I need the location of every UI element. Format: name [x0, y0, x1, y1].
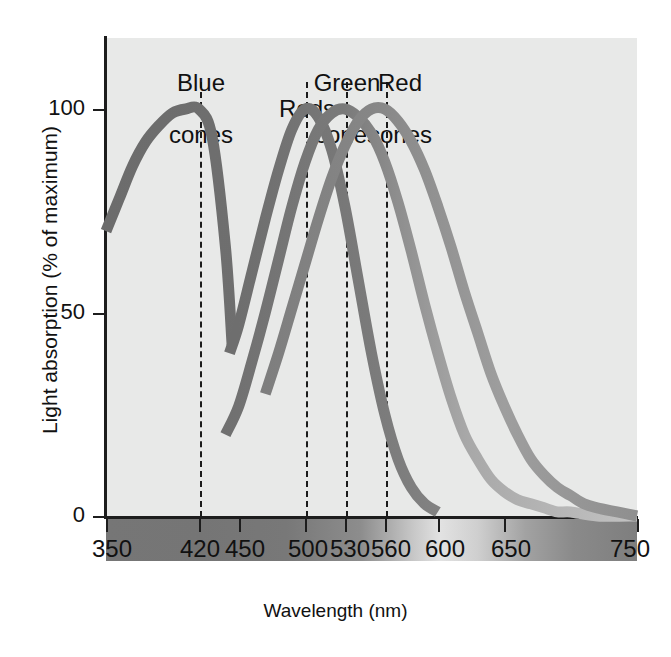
- figure-container: 100 50 0 Light absorption (% of maximum)…: [0, 0, 671, 657]
- x-tick-600: [438, 519, 440, 532]
- callout-blue-cones-line2: cones: [169, 122, 233, 148]
- x-tick-label-420: 420: [180, 536, 220, 562]
- x-tick-420: [199, 519, 201, 532]
- x-tick-350: [106, 519, 108, 532]
- x-tick-label-650: 650: [491, 536, 531, 562]
- callout-red-cones-line2: cones: [368, 122, 432, 148]
- x-tick-450: [239, 519, 241, 532]
- y-tick-label-0: 0: [73, 504, 85, 526]
- x-tick-500: [305, 519, 307, 532]
- y-tick-50: [93, 313, 105, 315]
- y-tick-label-50: 50: [61, 301, 85, 323]
- x-tick-label-530: 530: [330, 536, 370, 562]
- y-tick-100: [93, 109, 105, 111]
- figure-caption-partial: [0, 640, 671, 657]
- callout-red-cones-line1: Red: [368, 70, 432, 96]
- x-tick-label-600: 600: [425, 536, 465, 562]
- y-axis-title: Light absorption (% of maximum): [38, 70, 62, 490]
- x-tick-530: [345, 519, 347, 532]
- y-tick-0: [93, 516, 105, 518]
- callout-blue-cones-line1: Blue: [169, 70, 233, 96]
- x-tick-label-450: 450: [225, 536, 265, 562]
- x-axis-title: Wavelength (nm): [0, 600, 671, 622]
- callout-blue-cones: Blue cones: [169, 44, 233, 174]
- x-tick-label-750: 750: [610, 536, 650, 562]
- x-tick-label-500: 500: [288, 536, 328, 562]
- callout-red-cones: Red cones: [368, 44, 432, 174]
- x-tick-560: [385, 519, 387, 532]
- x-tick-750: [637, 519, 639, 532]
- x-tick-650: [504, 519, 506, 532]
- x-tick-label-560: 560: [371, 536, 411, 562]
- x-tick-label-350: 350: [92, 536, 132, 562]
